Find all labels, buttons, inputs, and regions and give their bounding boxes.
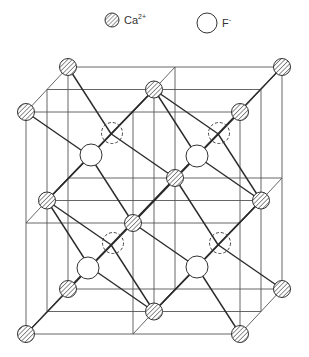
ca-ion xyxy=(146,81,163,98)
f-ion xyxy=(77,257,99,279)
ca-ion xyxy=(274,59,291,76)
ca-ion xyxy=(60,59,77,76)
ca-ion xyxy=(274,281,291,298)
f-ion xyxy=(186,145,208,167)
ca-ion xyxy=(146,303,163,320)
fluorite-lattice-diagram xyxy=(0,0,309,357)
f-ion xyxy=(186,256,208,278)
ca-ion xyxy=(232,104,249,121)
ca-ion xyxy=(232,326,249,343)
ca-ion xyxy=(39,192,56,209)
ca-ion xyxy=(167,170,184,187)
ca-ion xyxy=(125,215,142,232)
ca-ion xyxy=(18,326,35,343)
ca-ion xyxy=(60,281,77,298)
ca-ion xyxy=(18,104,35,121)
ca-ion xyxy=(253,192,270,209)
f-ion xyxy=(80,144,102,166)
